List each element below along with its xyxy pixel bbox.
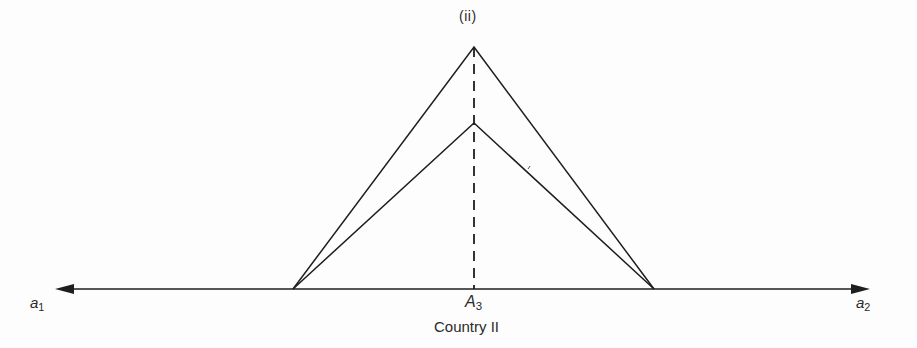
diagram-canvas: (ii) a1 a2 A3 Country II	[0, 0, 917, 348]
arrowhead-left-icon	[55, 284, 74, 294]
diagram-svg	[0, 0, 917, 348]
arrowhead-right-icon	[851, 284, 870, 294]
axis-right-label-sub: 2	[864, 301, 870, 313]
diagram-caption: Country II	[434, 318, 499, 335]
center-point-label: A3	[465, 293, 482, 312]
small-tick-mark	[528, 166, 530, 169]
axis-right-label: a2	[856, 294, 870, 313]
center-label-base: A	[465, 293, 476, 310]
center-label-sub: 3	[476, 300, 482, 312]
peak-label: (ii)	[459, 8, 477, 24]
axis-left-label-sub: 1	[38, 301, 44, 313]
axis-left-label: a1	[30, 294, 44, 313]
